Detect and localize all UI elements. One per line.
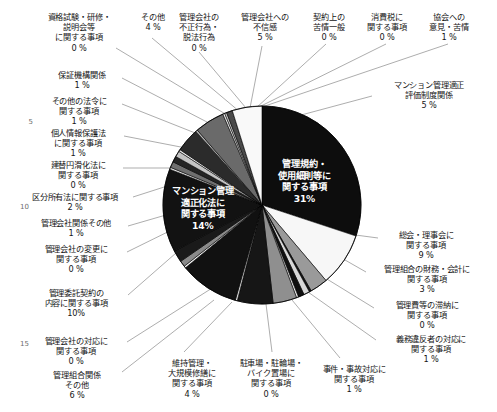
callout-label-mgmt-co-distrust: 管理会社への 不信感 5 % [231,12,299,43]
callout-label-mgmt-co-illegal: 管理会社の 不正行為・ 脱法行為 0 % [168,12,230,53]
callout-label-qualification-exam: 資格試験・研修・ 説明会等 に関する事項 0 % [36,12,122,53]
pie-chart-figure: 管理規約・ 使用細則等に 関する事項 31%マンション管理 適正化法に 関する事… [0,0,497,412]
callout-label-evaluation-system: マンション管理適正 評価制度関係 5 % [377,80,481,111]
callout-label-rebuilding-law: 建替円滑化法に 関する事項 0 % [34,160,122,191]
callout-label-contract-complaints: 契約上の 苦情一般 0 % [303,12,355,43]
callout-label-violator-response: 義務違反者の対応に 関する事項 1 % [381,334,481,365]
callout-label-general-board: 総会・理事会に 関する事項 9 % [383,230,469,261]
line-number: 5 [17,118,33,126]
callout-label-incident-accident: 事件・事故対応に 関する事項 1 % [310,364,398,395]
line-number: 15 [13,340,29,348]
pie-inner-label: 管理規約・ 使用細則等に 関する事項 31% [278,158,331,204]
callout-label-consumption-tax: 消費税に 関する事項 0 % [359,12,415,43]
callout-label-guarantee-org: 保証機構関係 1 % [42,70,122,90]
callout-label-mgmt-co-change: 管理会社の変更に 関する事項 0 % [28,244,124,275]
callout-label-mgmt-co-response: 管理会社の対応に 関する事項 0 % [28,336,124,367]
callout-label-mgmt-co-other: 管理会社関係その他 1 % [25,218,127,238]
callout-label-parking-bicycle: 駐車場・駐輪場・ バイク置場に 関する事項 0 % [228,358,314,399]
pie-inner-label: マンション管理 適正化法に 関する事項 14% [172,185,234,231]
callout-label-maintenance-repair: 維持管理・ 大規模修繕に 関する事項 4 % [151,358,233,399]
callout-label-other-laws: その他の法令に 関する事項 1 % [36,96,122,127]
callout-label-condo-ownership-law: 区分所有法に関する事項 2 % [18,192,132,212]
callout-label-association-opinions: 協会への 意見・苦情 1 % [421,12,477,43]
callout-label-assoc-finance: 管理組合の財務・会計に 関する事項 3 % [370,264,484,295]
callout-label-mgmt-contract-content: 管理委託契約の 内容に関する事項 10% [26,288,126,319]
callout-label-mgmt-fee-arrears: 管理費等の滞納に 関する事項 0 % [379,300,475,331]
line-number: 10 [13,203,29,211]
callout-label-personal-info-law: 個人情報保護法 に関する事項 1 % [33,128,123,159]
callout-label-mgmt-assoc-other: 管理組合関係 その他 6 % [38,370,116,401]
